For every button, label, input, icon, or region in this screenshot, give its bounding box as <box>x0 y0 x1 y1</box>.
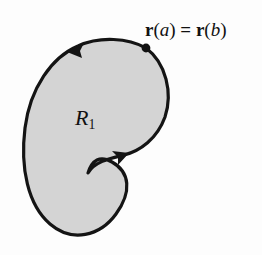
region-label-r: R <box>75 105 88 130</box>
figure-container: r(a) = r(b) R1 <box>0 0 262 255</box>
endpoint-label: r(a) = r(b) <box>145 20 227 39</box>
endpoint-label-b: b <box>211 19 221 40</box>
endpoint-label-close-paren-b: ) <box>220 19 226 40</box>
endpoint-label-equals: = <box>176 19 196 40</box>
curve-endpoint-dot <box>142 44 151 53</box>
endpoint-label-a: a <box>160 19 170 40</box>
region-label-subscript: 1 <box>88 117 95 132</box>
region-shape-r1 <box>24 39 169 235</box>
region-label: R1 <box>75 107 95 131</box>
